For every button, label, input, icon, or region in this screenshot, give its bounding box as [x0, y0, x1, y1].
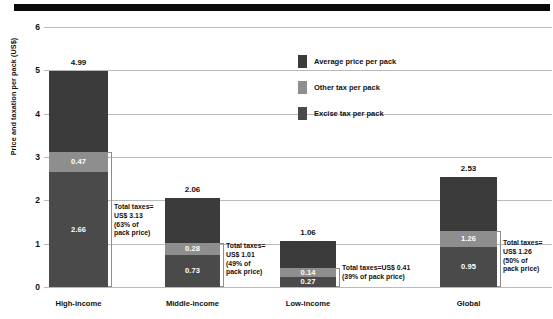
segment-value-other-high-income: 0.47 — [71, 158, 86, 166]
y-tick-2: 2 — [26, 195, 40, 205]
legend-swatch-icon-average-price — [298, 55, 307, 68]
bar-total-label-high-income: 4.99 — [49, 58, 108, 67]
gridline-0 — [44, 287, 552, 288]
annotation-low-income: Total taxes=US$ 0.41 (39% of pack price) — [342, 264, 452, 282]
segment-excise-tax-middle-income[interactable]: 0.73 — [165, 255, 220, 287]
segment-value-other-low-income: 0.14 — [301, 269, 316, 277]
category-label-high-income: High-income — [14, 299, 144, 308]
legend-label-other-tax: Other tax per pack — [314, 83, 380, 92]
y-axis-title: Price and taxation per pack (US$) — [9, 22, 18, 172]
segment-excise-tax-global[interactable]: 0.95 — [440, 247, 497, 287]
annotation-high-income: Total taxes= US$ 3.13 (63% of pack price… — [114, 203, 170, 238]
tax-bracket-middle-income — [220, 243, 224, 287]
bar-total-label-global: 2.53 — [440, 164, 497, 173]
chart-legend: Average price per pack Other tax per pac… — [298, 48, 488, 126]
segment-value-excise-low-income: 0.27 — [301, 278, 316, 286]
tax-bracket-low-income — [336, 268, 340, 287]
segment-value-excise-global: 0.95 — [461, 263, 476, 271]
y-tick-5: 5 — [26, 65, 40, 75]
y-tick-3: 3 — [26, 152, 40, 162]
gridline-6 — [44, 27, 552, 28]
segment-other-tax-low-income[interactable]: 0.14 — [280, 268, 336, 277]
segment-value-excise-middle-income: 0.73 — [185, 267, 200, 275]
legend-item-average-price[interactable]: Average price per pack — [298, 48, 488, 74]
annotation-global: Total taxes= US$ 1.26 (50% of pack price… — [503, 239, 553, 274]
stacked-bar-chart: Price and taxation per pack (US$) 6 5 4 … — [0, 0, 553, 319]
segment-excise-tax-low-income[interactable]: 0.27 — [280, 277, 336, 287]
category-label-low-income: Low-income — [243, 299, 373, 308]
bar-group-high-income[interactable]: 4.99 0.47 2.66 — [49, 71, 108, 287]
segment-value-other-middle-income: 0.28 — [185, 245, 200, 253]
legend-label-average-price: Average price per pack — [314, 57, 396, 66]
segment-other-tax-global[interactable]: 1.26 — [440, 231, 497, 247]
y-tick-1: 1 — [26, 239, 40, 249]
segment-excise-tax-high-income[interactable]: 2.66 — [49, 172, 108, 287]
category-label-global: Global — [404, 299, 534, 308]
bar-group-global[interactable]: 2.53 1.26 0.95 — [440, 177, 497, 287]
legend-item-other-tax[interactable]: Other tax per pack — [298, 74, 488, 100]
segment-average-price-high-income[interactable] — [49, 71, 108, 152]
segment-other-tax-high-income[interactable]: 0.47 — [49, 152, 108, 172]
segment-other-tax-middle-income[interactable]: 0.28 — [165, 243, 220, 255]
y-tick-6: 6 — [26, 22, 40, 32]
gridline-3 — [44, 157, 552, 158]
segment-average-price-global[interactable] — [440, 177, 497, 231]
tax-bracket-global — [497, 231, 501, 287]
legend-swatch-icon-excise-tax — [298, 107, 307, 120]
bar-group-middle-income[interactable]: 2.06 0.28 0.73 — [165, 198, 220, 287]
tax-bracket-high-income — [108, 152, 112, 287]
legend-item-excise-tax[interactable]: Excise tax per pack — [298, 100, 488, 126]
segment-value-other-global: 1.26 — [461, 235, 476, 243]
bar-group-low-income[interactable]: 1.06 0.14 0.27 — [280, 241, 336, 287]
legend-label-excise-tax: Excise tax per pack — [314, 109, 384, 118]
y-tick-4: 4 — [26, 109, 40, 119]
segment-average-price-middle-income[interactable] — [165, 198, 220, 243]
annotation-middle-income: Total taxes= US$ 1.01 (49% of pack price… — [226, 242, 282, 277]
category-label-middle-income: Middle-income — [128, 299, 258, 308]
bar-total-label-middle-income: 2.06 — [165, 185, 220, 194]
y-tick-0: 0 — [26, 282, 40, 292]
bar-total-label-low-income: 1.06 — [280, 228, 336, 237]
segment-average-price-low-income[interactable] — [280, 241, 336, 268]
legend-swatch-icon-other-tax — [298, 81, 307, 94]
segment-value-excise-high-income: 2.66 — [71, 226, 86, 234]
